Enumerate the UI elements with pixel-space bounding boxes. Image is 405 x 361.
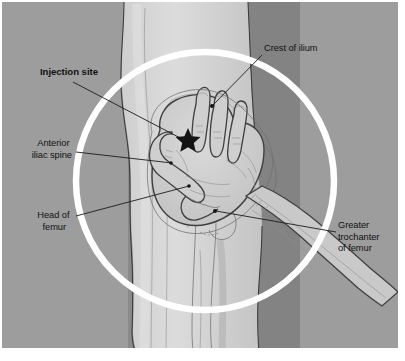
label-line: iliac spine: [32, 150, 72, 160]
anatomy-illustration-svg: Crest of ilium Injection site Anterior i…: [0, 0, 405, 361]
dot-crest-of-ilium: [210, 104, 214, 108]
label-line: trochanter: [338, 232, 379, 242]
label-line: Anterior: [37, 138, 69, 148]
label-line: Injection site: [40, 66, 98, 77]
label-crest-of-ilium: Crest of ilium: [264, 43, 318, 53]
label-line: Crest of ilium: [264, 43, 318, 53]
dot-anterior-iliac-spine: [169, 161, 173, 165]
dot-head-of-femur: [187, 184, 191, 188]
label-line: Greater: [338, 220, 369, 230]
label-anterior-iliac-spine: Anterior iliac spine: [32, 138, 72, 160]
illustration-figure: Crest of ilium Injection site Anterior i…: [0, 0, 405, 361]
label-line: femur: [42, 222, 66, 232]
dot-greater-trochanter: [213, 209, 217, 213]
label-line: of femur: [338, 243, 372, 253]
label-line: Head of: [37, 210, 70, 220]
label-injection-site: Injection site: [40, 66, 98, 77]
